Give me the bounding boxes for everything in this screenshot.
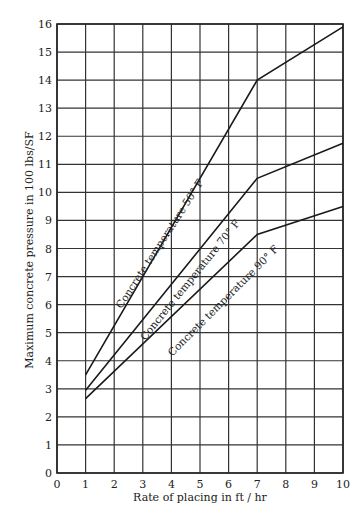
y-tick-label: 7 bbox=[45, 271, 52, 284]
y-tick-label: 4 bbox=[45, 355, 52, 368]
x-tick-label: 7 bbox=[254, 478, 261, 491]
y-tick-label: 2 bbox=[45, 411, 52, 424]
x-tick-label: 1 bbox=[82, 478, 89, 491]
x-tick-label: 5 bbox=[197, 478, 204, 491]
y-tick-label: 16 bbox=[38, 18, 52, 31]
series-label: Concrete temperature 70° F bbox=[137, 217, 242, 342]
y-tick-label: 13 bbox=[38, 102, 52, 115]
y-tick-label: 9 bbox=[45, 214, 52, 227]
chart: Concrete temperature 50° FConcrete tempe… bbox=[0, 0, 363, 529]
x-tick-label: 8 bbox=[282, 478, 289, 491]
series-label: Concrete temperature 90° F bbox=[165, 243, 281, 359]
y-tick-label: 5 bbox=[45, 327, 52, 340]
x-tick-label: 2 bbox=[111, 478, 118, 491]
y-tick-label: 0 bbox=[45, 467, 52, 480]
y-tick-label: 14 bbox=[38, 74, 52, 87]
y-axis-ticks: 012345678910111213141516 bbox=[38, 18, 52, 480]
x-tick-label: 4 bbox=[168, 478, 175, 491]
y-tick-label: 8 bbox=[45, 243, 52, 256]
y-tick-label: 1 bbox=[45, 439, 52, 452]
x-tick-label: 10 bbox=[336, 478, 350, 491]
chart-series: Concrete temperature 50° FConcrete tempe… bbox=[86, 27, 343, 399]
x-tick-label: 6 bbox=[225, 478, 232, 491]
y-tick-label: 3 bbox=[45, 383, 52, 396]
x-tick-label: 0 bbox=[54, 478, 61, 491]
y-tick-label: 12 bbox=[38, 130, 52, 143]
x-axis-ticks: 012345678910 bbox=[54, 478, 351, 491]
series-line bbox=[86, 27, 343, 375]
y-tick-label: 11 bbox=[38, 158, 52, 171]
series-line bbox=[86, 143, 343, 390]
y-tick-label: 15 bbox=[38, 46, 52, 59]
x-tick-label: 9 bbox=[311, 478, 318, 491]
y-axis-title: Maximum concrete pressure in 100 lbs/SF bbox=[23, 131, 36, 369]
y-tick-label: 10 bbox=[38, 186, 52, 199]
y-tick-label: 6 bbox=[45, 299, 52, 312]
series-label: Concrete temperature 50° F bbox=[113, 177, 206, 311]
x-tick-label: 3 bbox=[139, 478, 146, 491]
x-axis-title: Rate of placing in ft / hr bbox=[133, 491, 268, 504]
